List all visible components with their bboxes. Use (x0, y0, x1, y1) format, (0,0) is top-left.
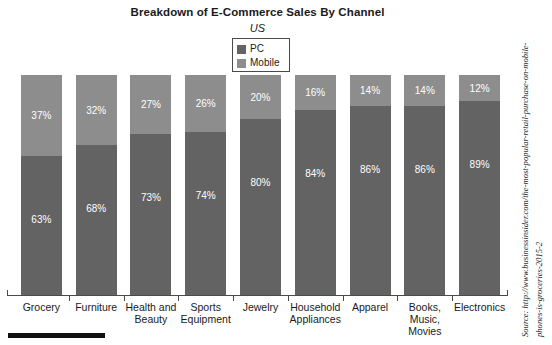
legend-swatch-pc (237, 45, 246, 54)
x-axis-label-line: Beauty (120, 313, 183, 325)
chart-legend: PC Mobile (232, 38, 290, 72)
segment-pc: 68% (76, 145, 117, 295)
legend-swatch-mobile (237, 59, 246, 68)
x-axis-label-line: Grocery (10, 301, 73, 313)
chart-root: Breakdown of E-Commerce Sales By Channel… (0, 0, 552, 345)
segment-mobile: 14% (350, 75, 391, 106)
x-axis-left-cap (7, 290, 8, 295)
bar-sports-equipment: 26%74% (185, 75, 226, 295)
segment-pc: 86% (404, 106, 445, 295)
segment-value-pc: 86% (360, 164, 380, 175)
segment-value-pc: 89% (470, 159, 490, 170)
bar-apparel: 14%86% (350, 75, 391, 295)
x-axis-label-line: Furniture (65, 301, 128, 313)
x-axis-label: Apparel (339, 301, 402, 313)
x-axis-label: Jewelry (229, 301, 292, 313)
segment-value-pc: 68% (86, 203, 106, 214)
legend-item-pc: PC (237, 42, 289, 56)
x-axis-label-line: Equipment (174, 313, 237, 325)
segment-pc: 74% (185, 132, 226, 295)
segment-value-pc: 84% (305, 168, 325, 179)
bar-books-music-movies: 14%86% (404, 75, 445, 295)
source-line-2: phones-is-groceries-2015-2 (534, 242, 544, 337)
bar-jewelry: 20%80% (240, 75, 281, 295)
x-axis-label: Grocery (10, 301, 73, 313)
bar-furniture: 32%68% (76, 75, 117, 295)
x-axis-line (7, 295, 508, 296)
segment-value-mobile: 14% (415, 85, 435, 96)
segment-pc: 80% (240, 119, 281, 295)
x-axis-label: Electronics (448, 301, 511, 313)
bar-health-and-beauty: 27%73% (130, 75, 171, 295)
x-axis-label-line: Household (284, 301, 347, 313)
segment-mobile: 12% (459, 75, 500, 101)
segment-pc: 89% (459, 101, 500, 295)
x-axis-label: SportsEquipment (174, 301, 237, 325)
segment-pc: 63% (21, 156, 62, 295)
legend-item-mobile: Mobile (237, 56, 289, 70)
x-axis-label-line: Jewelry (229, 301, 292, 313)
segment-mobile: 20% (240, 75, 281, 119)
segment-value-mobile: 37% (31, 110, 51, 121)
segment-value-mobile: 20% (250, 92, 270, 103)
segment-mobile: 14% (404, 75, 445, 106)
segment-mobile: 26% (185, 75, 226, 132)
segment-value-mobile: 14% (360, 85, 380, 96)
segment-value-mobile: 27% (141, 99, 161, 110)
segment-mobile: 16% (295, 75, 336, 110)
segment-value-pc: 73% (141, 192, 161, 203)
source-citation: Source: http://www.businessinsider.com/t… (506, 0, 552, 345)
segment-value-pc: 74% (196, 190, 216, 201)
segment-mobile: 32% (76, 75, 117, 145)
segment-mobile: 27% (130, 75, 171, 134)
segment-mobile: 37% (21, 75, 62, 156)
x-axis-label-line: Sports (174, 301, 237, 313)
x-axis-label-line: Books, (393, 301, 456, 313)
segment-value-pc: 80% (250, 177, 270, 188)
segment-pc: 84% (295, 110, 336, 295)
x-axis-label-line: Appliances (284, 313, 347, 325)
x-axis-label: HouseholdAppliances (284, 301, 347, 325)
bottom-artifact-bar (8, 333, 105, 338)
segment-value-mobile: 12% (470, 83, 490, 94)
segment-pc: 73% (130, 134, 171, 295)
segment-value-mobile: 26% (196, 98, 216, 109)
legend-label-mobile: Mobile (250, 58, 279, 68)
x-axis-label: Health andBeauty (120, 301, 183, 325)
segment-value-mobile: 32% (86, 105, 106, 116)
bar-household-appliances: 16%84% (295, 75, 336, 295)
x-axis-label: Furniture (65, 301, 128, 313)
x-axis-label-line: Health and (120, 301, 183, 313)
bar-electronics: 12%89% (459, 75, 500, 295)
x-axis-label: Books,Music,Movies (393, 301, 456, 337)
x-axis-label-line: Music, (393, 313, 456, 325)
x-axis-label-line: Electronics (448, 301, 511, 313)
segment-value-pc: 86% (415, 164, 435, 175)
segment-value-mobile: 16% (305, 87, 325, 98)
x-axis-label-line: Apparel (339, 301, 402, 313)
legend-label-pc: PC (250, 44, 264, 54)
x-axis-label-line: Movies (393, 325, 456, 337)
source-line-1: Source: http://www.businessinsider.com/t… (520, 43, 530, 337)
segment-value-pc: 63% (31, 214, 51, 225)
segment-pc: 86% (350, 106, 391, 295)
bar-grocery: 37%63% (21, 75, 62, 295)
